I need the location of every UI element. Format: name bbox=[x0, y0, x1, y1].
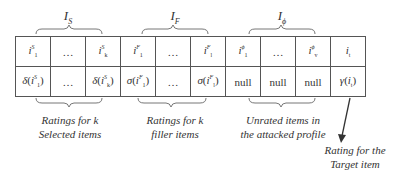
bottom-brace-filler bbox=[138, 98, 206, 107]
rating-cell-filler-first: σ(iF1) bbox=[121, 67, 156, 97]
item-cell-unrated-last: iϕv bbox=[296, 37, 331, 67]
target-arrow-head bbox=[338, 134, 346, 143]
rating-cell-null: null bbox=[261, 67, 296, 97]
unrated-items-description: Unrated items in the attacked profile bbox=[228, 113, 338, 141]
target-item-description: Rating for the Target item bbox=[310, 143, 400, 171]
filler-items-description: Ratings for k filler items bbox=[130, 113, 220, 141]
item-cell-selected-last: iSk bbox=[86, 37, 121, 67]
item-cell-unrated-first: iϕ1 bbox=[226, 37, 261, 67]
bottom-brace-selected bbox=[36, 98, 102, 107]
item-cell-selected-first: iS1 bbox=[16, 37, 51, 67]
ratings-row: δ(iS1) … δ(iSk) σ(iF1) … σ(iFl) null nul… bbox=[16, 67, 366, 97]
item-cell-ellipsis: … bbox=[261, 37, 296, 67]
target-arrow-line bbox=[342, 98, 350, 136]
rating-cell-selected-first: δ(iS1) bbox=[16, 67, 51, 97]
rating-cell-selected-last: δ(iSk) bbox=[86, 67, 121, 97]
rating-cell-null: null bbox=[296, 67, 331, 97]
item-cell-filler-first: iF1 bbox=[121, 37, 156, 67]
item-cell-ellipsis: … bbox=[156, 37, 191, 67]
item-cell-filler-last: iFl bbox=[191, 37, 226, 67]
items-row: iS1 … iSk iF1 … iFl iϕ1 … iϕv it bbox=[16, 37, 366, 67]
item-cell-ellipsis: … bbox=[51, 37, 86, 67]
item-cell-target: it bbox=[331, 37, 366, 67]
rating-cell-target: γ(it) bbox=[331, 67, 366, 97]
attack-profile-table: iS1 … iSk iF1 … iFl iϕ1 … iϕv it δ(iS1) … bbox=[15, 36, 366, 97]
rating-cell-filler-last: σ(iFl) bbox=[191, 67, 226, 97]
rating-cell-ellipsis: … bbox=[156, 67, 191, 97]
rating-cell-ellipsis: … bbox=[51, 67, 86, 97]
rating-cell-null: null bbox=[226, 67, 261, 97]
top-brace-filler bbox=[142, 25, 208, 34]
bottom-brace-unrated bbox=[249, 98, 315, 107]
top-brace-selected bbox=[36, 25, 102, 34]
selected-items-description: Ratings for k Selected items bbox=[20, 113, 120, 141]
top-brace-unrated bbox=[249, 25, 315, 34]
